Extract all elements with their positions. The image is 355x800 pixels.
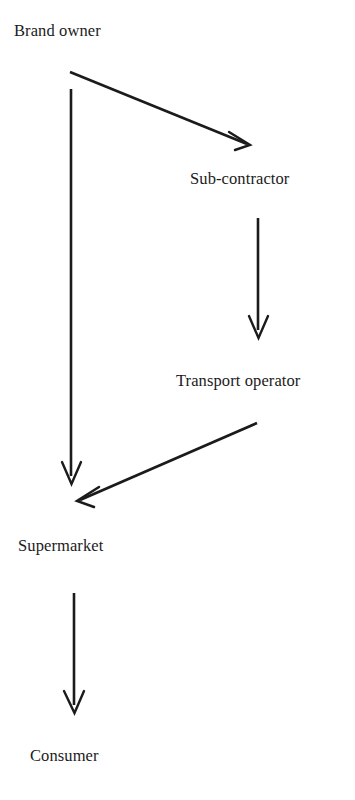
- node-consumer: Consumer: [30, 747, 99, 765]
- node-sub-contractor: Sub-contractor: [190, 170, 289, 188]
- node-transport-operator: Transport operator: [176, 372, 300, 390]
- arrow-brand-owner-to-supermarket: [62, 89, 81, 484]
- flow-diagram-canvas: Brand owner Sub-contractor Transport ope…: [0, 0, 355, 800]
- arrow-brand-owner-to-sub-contractor: [70, 72, 250, 150]
- arrow-layer: [0, 0, 355, 800]
- arrow-transport-operator-to-supermarket: [77, 423, 257, 507]
- arrow-supermarket-to-consumer: [64, 593, 84, 713]
- node-brand-owner: Brand owner: [14, 22, 101, 40]
- arrow-sub-contractor-to-transport-operator: [249, 218, 268, 338]
- node-supermarket: Supermarket: [18, 537, 103, 555]
